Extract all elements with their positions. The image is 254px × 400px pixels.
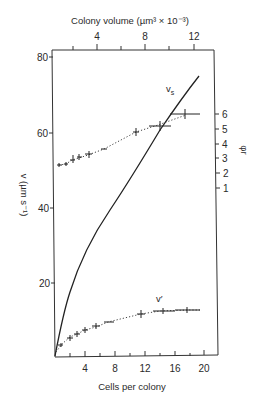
phi-error-bars xyxy=(57,109,200,167)
right-tick-2: 2 xyxy=(223,168,229,179)
right-tick-5: 5 xyxy=(222,124,228,135)
left-axis-title: v (µm s⁻¹) xyxy=(19,174,30,217)
right-tick-6: 6 xyxy=(222,109,228,120)
series-vprime-dotted xyxy=(56,310,202,352)
bottom-axis-title: Cells per colony xyxy=(98,381,166,392)
chart-figure: 4 8 12 Colony volume (µm³ × 10⁻³) 80 60 … xyxy=(0,0,254,400)
plot-frame xyxy=(52,50,218,357)
left-tick-60: 60 xyxy=(37,128,49,139)
right-tick-1: 1 xyxy=(223,183,229,194)
left-tick-80: 80 xyxy=(37,52,49,63)
vprime-error-bars xyxy=(58,307,200,347)
top-axis-title: Colony volume (µm³ × 10⁻³) xyxy=(71,15,189,26)
top-axis-ticks xyxy=(73,44,194,50)
top-tick-8: 8 xyxy=(142,31,148,42)
left-tick-20: 20 xyxy=(39,278,51,289)
bottom-tick-8: 8 xyxy=(112,363,118,374)
bottom-tick-16: 16 xyxy=(169,363,181,374)
vs-label: vs xyxy=(166,83,175,96)
vprime-label: v′ xyxy=(156,293,163,304)
bottom-tick-12: 12 xyxy=(139,363,151,374)
top-tick-12: 12 xyxy=(188,31,200,42)
bottom-tick-4: 4 xyxy=(82,363,88,374)
bottom-tick-20: 20 xyxy=(198,363,210,374)
right-tick-4: 4 xyxy=(222,139,228,150)
left-tick-40: 40 xyxy=(38,203,50,214)
top-tick-4: 4 xyxy=(94,31,100,42)
right-tick-3: 3 xyxy=(222,153,228,164)
right-axis-title: φr xyxy=(239,145,250,154)
